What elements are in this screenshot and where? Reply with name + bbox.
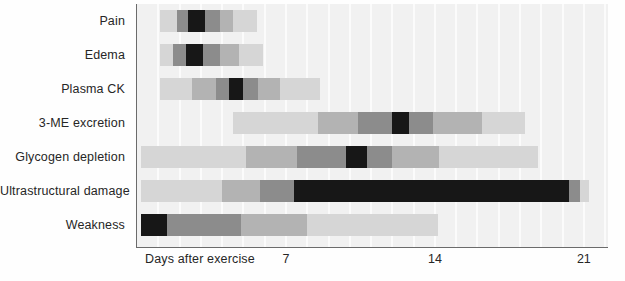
bar-segment-moderate [220, 10, 233, 32]
bar-segment-low [307, 214, 437, 236]
gridline-day-19 [540, 4, 542, 248]
bar-weakness [141, 214, 437, 236]
bar-segment-moderate [258, 78, 280, 100]
bar-edema [160, 44, 262, 66]
bar-segment-low [160, 78, 192, 100]
bar-ultrastructural-damage [141, 180, 588, 202]
bar-segment-high [203, 44, 221, 66]
bar-segment-high [177, 10, 188, 32]
category-label-pain: Pain [0, 15, 133, 28]
bar-segment-high [243, 78, 258, 100]
gridline-day-2 [179, 4, 181, 248]
bar-segment-high [205, 10, 220, 32]
category-label-column: PainEdemaPlasma CK3-ME excretionGlycogen… [0, 0, 133, 248]
x-tick-label-7: 7 [282, 253, 289, 266]
bar-segment-low [280, 78, 321, 100]
bar-glycogen-depletion [141, 146, 537, 168]
bar-segment-high [367, 146, 393, 168]
bar-segment-high [216, 78, 229, 100]
bar-segment-moderate [220, 44, 240, 66]
figure-muscle-damage-timecourse: PainEdemaPlasma CK3-ME excretionGlycogen… [0, 0, 625, 281]
gridline-day-3 [200, 4, 202, 248]
category-label-weakness: Weakness [0, 219, 133, 232]
bar-segment-low [160, 10, 178, 32]
bar-segment-low [233, 10, 257, 32]
bar-segment-moderate [192, 78, 216, 100]
bar-segment-low [160, 44, 173, 66]
bar-segment-peak [346, 146, 368, 168]
bar-segment-peak [141, 214, 167, 236]
gridline-day-21 [583, 4, 585, 248]
bar-segment-high [173, 44, 186, 66]
bar-segment-low [439, 146, 537, 168]
bar-segment-high [569, 180, 580, 202]
bar-segment-moderate [392, 146, 439, 168]
gridline-day-22 [604, 4, 606, 248]
bar-segment-high [409, 112, 433, 134]
bar-segment-moderate [222, 180, 261, 202]
bar-segment-low [482, 112, 525, 134]
category-label-3-me-excretion: 3-ME excretion [0, 117, 133, 130]
plot-area [137, 4, 608, 248]
bar-segment-low [141, 180, 222, 202]
x-axis-spine [136, 247, 608, 248]
category-label-edema: Edema [0, 49, 133, 62]
x-tick-label-14: 14 [428, 253, 442, 266]
bar-segment-low [233, 112, 319, 134]
bar-segment-low [239, 44, 263, 66]
bar-segment-high [260, 180, 295, 202]
bar-3-me-excretion [233, 112, 525, 134]
bar-segment-peak [392, 112, 410, 134]
x-axis-caption: Days after exercise [145, 253, 255, 266]
bar-segment-peak [229, 78, 244, 100]
category-label-glycogen-depletion: Glycogen depletion [0, 151, 133, 164]
y-axis-spine [136, 4, 137, 248]
bar-segment-low [580, 180, 589, 202]
bar-segment-moderate [318, 112, 359, 134]
bar-plasma-ck [160, 78, 320, 100]
bar-pain [160, 10, 256, 32]
gridline-day-1 [157, 4, 159, 248]
bar-segment-high [167, 214, 242, 236]
gridline-day-4 [221, 4, 223, 248]
bar-segment-high [358, 112, 393, 134]
gridline-day-20 [562, 4, 564, 248]
bar-segment-peak [186, 44, 204, 66]
bar-segment-high [297, 146, 346, 168]
bar-segment-moderate [241, 214, 307, 236]
category-label-ultrastructural-damage: Ultrastructural damage [0, 185, 133, 198]
bar-segment-moderate [246, 146, 298, 168]
bar-segment-peak [294, 180, 569, 202]
bar-segment-peak [188, 10, 206, 32]
bar-segment-low [141, 146, 246, 168]
category-label-plasma-ck: Plasma CK [0, 83, 133, 96]
x-tick-label-21: 21 [577, 253, 591, 266]
bar-segment-moderate [433, 112, 482, 134]
